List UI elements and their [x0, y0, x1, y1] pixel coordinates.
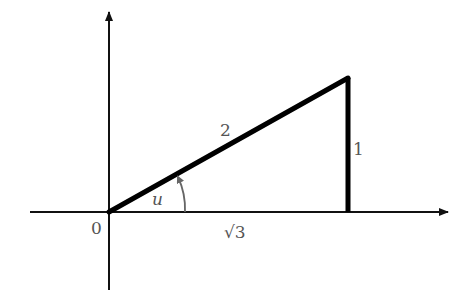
- origin-label: 0: [91, 218, 102, 238]
- adjacent-label: √3: [224, 222, 246, 242]
- opposite-label: 1: [353, 139, 364, 159]
- angle-label: u: [152, 189, 163, 209]
- angle-arc: [178, 177, 185, 212]
- triangle-diagram: 0 2 1 √3 u: [0, 0, 467, 301]
- hypotenuse-line: [109, 78, 348, 212]
- hypotenuse-label: 2: [220, 120, 231, 140]
